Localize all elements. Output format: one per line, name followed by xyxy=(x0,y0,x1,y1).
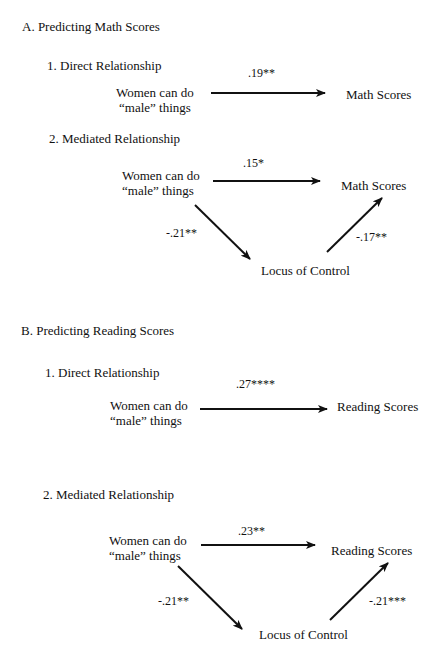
section-b-mediated-predictor: Women can do “male” things xyxy=(109,533,187,563)
section-b-mediator: Locus of Control xyxy=(259,627,348,642)
predictor-line1: Women can do xyxy=(109,533,187,548)
section-b-mediated-coef-a: -.21** xyxy=(158,595,189,607)
section-b-direct-predictor: Women can do “male” things xyxy=(110,398,188,428)
section-a-mediated-coef-b: -.17** xyxy=(356,231,387,243)
section-a-mediator: Locus of Control xyxy=(261,263,350,278)
predictor-line2: “male” things xyxy=(110,413,188,428)
section-a-direct-heading: 1. Direct Relationship xyxy=(47,59,161,72)
section-b-mediated-coef-b: -.21*** xyxy=(369,595,406,607)
section-a-mediated-heading: 2. Mediated Relationship xyxy=(49,132,180,145)
predictor-line2: “male” things xyxy=(109,548,187,563)
arrow-a-to-mediator xyxy=(195,205,250,259)
section-b-direct-coef: .27**** xyxy=(236,378,275,390)
arrow-b-mediator-to-outcome xyxy=(330,563,388,620)
section-a-direct-outcome: Math Scores xyxy=(346,87,411,102)
section-a-mediated-outcome: Math Scores xyxy=(341,178,406,193)
section-a-direct-coef: .19** xyxy=(248,67,275,79)
predictor-line2: “male” things xyxy=(119,100,194,115)
predictor-line1: Women can do xyxy=(116,85,194,100)
predictor-line1: Women can do xyxy=(110,398,188,413)
section-b-mediated-coef-direct: .23** xyxy=(238,525,265,537)
predictor-line2: “male” things xyxy=(122,183,200,198)
section-b-direct-outcome: Reading Scores xyxy=(337,399,418,414)
section-a-mediated-predictor: Women can do “male” things xyxy=(122,168,200,198)
section-a-mediated-coef-a: -.21** xyxy=(166,227,197,239)
section-a-mediated-coef-direct: .15* xyxy=(243,157,264,169)
section-a-direct-predictor: Women can do “male” things xyxy=(116,85,194,115)
section-b-mediated-outcome: Reading Scores xyxy=(331,543,412,558)
section-b-mediated-heading: 2. Mediated Relationship xyxy=(43,488,174,501)
section-b-title: B. Predicting Reading Scores xyxy=(21,324,174,337)
section-a-title: A. Predicting Math Scores xyxy=(22,20,160,33)
section-b-direct-heading: 1. Direct Relationship xyxy=(45,366,159,379)
predictor-line1: Women can do xyxy=(122,168,200,183)
